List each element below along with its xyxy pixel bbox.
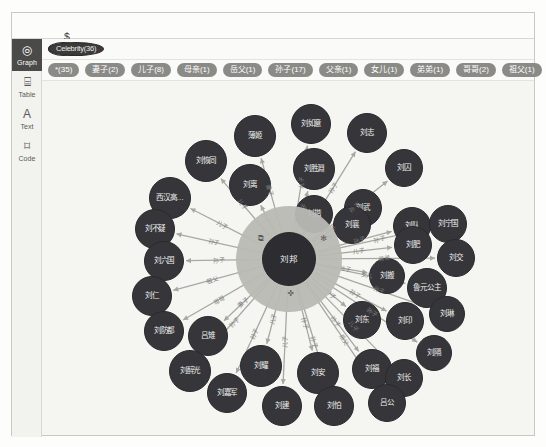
view-rail: ◎Graph⌸TableAText⌑Code: [12, 39, 42, 437]
query-bar: $ MATCH (n:Celebrity {name:'刘邦'}) RETURN…: [12, 13, 534, 39]
graph-node[interactable]: 刘印: [386, 302, 424, 340]
graph-node[interactable]: 刘仁: [132, 276, 172, 316]
rail-item-graph[interactable]: ◎Graph: [12, 39, 42, 71]
graph-node[interactable]: 刘东: [343, 301, 381, 339]
unlock-icon[interactable]: ✜: [285, 288, 296, 299]
graph-node[interactable]: 刘怕: [314, 386, 354, 426]
code-icon: ⌑: [12, 135, 42, 155]
edge-arrow: [430, 256, 435, 261]
graph-node[interactable]: 吕公: [368, 384, 406, 422]
edge-arrow: [176, 232, 181, 237]
graph-node[interactable]: 刘恢同: [185, 140, 227, 182]
edge-arrow: [173, 286, 179, 291]
rail-item-table[interactable]: ⌸Table: [12, 71, 42, 103]
edge-label: 弟弟: [377, 254, 389, 263]
node-label-chip[interactable]: Celebrity(36): [48, 42, 104, 56]
rail-item-text[interactable]: AText: [12, 103, 42, 135]
rel-type-chip[interactable]: 父亲(1): [319, 63, 359, 77]
graph-node[interactable]: 刘隔: [416, 335, 452, 371]
edge-arrow: [281, 379, 286, 384]
table-icon: ⌸: [12, 71, 42, 91]
graph-node-selected[interactable]: 刘邦: [262, 232, 316, 286]
graph-icon: ◎: [12, 39, 42, 59]
graph-node[interactable]: 刘宁国: [429, 205, 467, 243]
rel-type-chip[interactable]: *(35): [48, 63, 79, 77]
result-frame: $ MATCH (n:Celebrity {name:'刘邦'}) RETURN…: [11, 12, 535, 436]
rel-type-chip[interactable]: 妻子(2): [85, 63, 125, 77]
graph-node[interactable]: 刘肥: [394, 226, 432, 264]
graph-node[interactable]: 刘如意: [291, 104, 331, 144]
rail-item-label: Code: [12, 155, 42, 163]
edge-arrow: [386, 230, 392, 235]
graph-node[interactable]: 刘耀: [240, 345, 282, 387]
graph-node[interactable]: 刘交: [437, 239, 475, 277]
edge-label: 孙子: [212, 256, 224, 265]
legend-panel: *(36)Celebrity(36) *(35)妻子(2)儿子(8)母亲(1)岳…: [42, 39, 534, 81]
graph-node[interactable]: 刘醉光: [169, 350, 211, 392]
graph-node[interactable]: 刘嘉军: [207, 373, 247, 413]
rel-type-chip[interactable]: 儿子(8): [131, 63, 171, 77]
rel-type-chip[interactable]: 哥哥(2): [456, 63, 496, 77]
rail-item-label: Table: [12, 91, 42, 99]
text-icon: A: [12, 103, 42, 123]
edge-label: 儿子: [280, 336, 290, 348]
rel-type-chip[interactable]: 弟弟(1): [410, 63, 450, 77]
expand-icon[interactable]: ⧉: [255, 233, 266, 244]
node-label-row: *(36)Celebrity(36): [42, 39, 534, 60]
edge-arrow: [266, 338, 271, 343]
graph-node[interactable]: 刘六国: [144, 241, 184, 281]
edge-arrow: [186, 258, 191, 263]
rel-type-chip[interactable]: 孙子(17): [268, 63, 312, 77]
graph-node[interactable]: 刘志: [347, 113, 387, 153]
graph-node[interactable]: 刘建: [262, 386, 302, 426]
graph-node[interactable]: 刘琳: [429, 296, 465, 332]
graph-canvas[interactable]: 儿子孙子妻子孙子儿子孙子儿子孙子孙子儿子孙子孙子孙子孙子儿子弟弟孙子孙子女儿祖父…: [42, 81, 534, 435]
graph-node[interactable]: 薄姬: [234, 115, 276, 157]
graph-node[interactable]: 刘囚: [385, 149, 423, 187]
rail-item-code[interactable]: ⌑Code: [12, 135, 42, 167]
rel-type-chip[interactable]: 女儿(1): [364, 63, 404, 77]
edge-label: 儿子: [353, 246, 366, 256]
rel-type-chip[interactable]: 母亲(1): [177, 63, 217, 77]
rel-type-chip[interactable]: 祖父(1): [502, 63, 542, 77]
rail-item-label: Text: [12, 123, 42, 131]
info-icon[interactable]: ✻: [318, 233, 329, 244]
rel-type-row: *(35)妻子(2)儿子(8)母亲(1)岳父(1)孙子(17)父亲(1)女儿(1…: [42, 60, 534, 81]
rel-type-chip[interactable]: 岳父(1): [223, 63, 263, 77]
rail-item-label: Graph: [12, 59, 42, 67]
graph-node[interactable]: 刘防都: [144, 311, 184, 351]
